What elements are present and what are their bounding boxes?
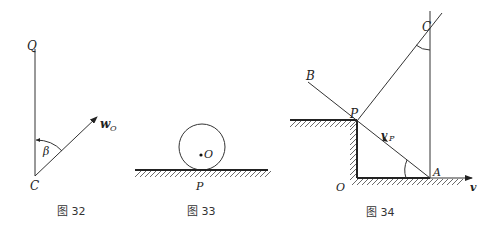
hatch-stroke — [165, 171, 171, 177]
angle-arrowhead-icon — [36, 138, 40, 142]
hatch-stroke — [350, 139, 356, 145]
caption-fig32: 图 32 — [57, 205, 86, 218]
hatch-stroke — [160, 171, 166, 177]
hatch-stroke — [330, 121, 336, 127]
hatch-stroke — [350, 121, 356, 127]
hatch-stroke — [352, 179, 358, 185]
label-vP: v — [381, 129, 388, 142]
figure-32: Q C β w O 图 32 — [27, 39, 117, 218]
hatch-stroke — [300, 121, 306, 127]
hatch-stroke — [350, 174, 356, 180]
center-dot — [199, 153, 202, 156]
hatch-stroke — [170, 171, 176, 177]
hatch-stroke — [345, 121, 351, 127]
rod-BA — [308, 82, 430, 178]
hatch-stroke — [350, 129, 356, 135]
hatch-stroke — [350, 124, 356, 130]
caption-fig33: 图 33 — [187, 205, 216, 218]
hatch-stroke — [397, 179, 403, 185]
label-beta: β — [42, 145, 49, 158]
hatch-stroke — [367, 179, 373, 185]
label-Q: Q — [27, 39, 37, 53]
hatch-stroke — [325, 121, 331, 127]
hatch-stroke — [335, 121, 341, 127]
hatch-stroke — [215, 171, 221, 177]
hatch-stroke — [350, 154, 356, 160]
hatch-stroke — [412, 179, 418, 185]
label-v: v — [470, 181, 477, 194]
hatch-stroke — [422, 179, 428, 185]
hatch-stroke — [220, 171, 226, 177]
hatch-stroke — [447, 179, 453, 185]
hatch-stroke — [210, 171, 216, 177]
hatch-stroke — [200, 171, 206, 177]
label-wO-subscript: O — [110, 124, 117, 133]
hatch-stroke — [350, 164, 356, 170]
hatch-stroke — [457, 179, 463, 185]
hatch-stroke — [320, 121, 326, 127]
hatch-stroke — [377, 179, 383, 185]
hatch-stroke — [175, 171, 181, 177]
hatch-stroke — [290, 121, 296, 127]
label-B: B — [305, 69, 315, 83]
hatch-stroke — [357, 179, 363, 185]
angle-C-arc — [416, 45, 430, 50]
figure-33: O P 图 33 — [135, 124, 271, 218]
hatch-stroke — [145, 171, 151, 177]
label-C: C — [422, 20, 431, 34]
hatch-stroke — [350, 149, 356, 155]
label-P: P — [349, 107, 359, 121]
diagram-canvas: Q C β w O 图 32 O P 图 33 — [0, 0, 497, 229]
ground-hatching — [135, 171, 271, 177]
label-P: P — [195, 180, 204, 193]
hatch-stroke — [305, 121, 311, 127]
label-O: O — [336, 181, 345, 194]
label-C: C — [30, 179, 39, 193]
hatch-stroke — [205, 171, 211, 177]
hatch-stroke — [350, 134, 356, 140]
hatch-stroke — [427, 179, 433, 185]
hatch-stroke — [150, 171, 156, 177]
hatch-stroke — [382, 179, 388, 185]
hatch-stroke — [255, 171, 261, 177]
figure-34: B P C A O v v P 图 34 — [290, 11, 477, 219]
hatch-stroke — [235, 171, 241, 177]
hatch-stroke — [372, 179, 378, 185]
hatch-stroke — [315, 121, 321, 127]
ledge-hatching — [290, 121, 356, 127]
hatch-stroke — [225, 171, 231, 177]
hatch-stroke — [437, 179, 443, 185]
floor-hatching — [352, 179, 463, 185]
hatch-stroke — [295, 121, 301, 127]
hatch-stroke — [350, 159, 356, 165]
hatch-stroke — [392, 179, 398, 185]
hatch-stroke — [265, 171, 271, 177]
hatch-stroke — [180, 171, 186, 177]
hatch-stroke — [190, 171, 196, 177]
hatch-stroke — [135, 171, 141, 177]
hatch-stroke — [240, 171, 246, 177]
hatch-stroke — [340, 121, 346, 127]
hatch-stroke — [260, 171, 266, 177]
hatch-stroke — [185, 171, 191, 177]
hatch-stroke — [387, 179, 393, 185]
caption-fig34: 图 34 — [366, 206, 395, 219]
label-O: O — [204, 148, 213, 161]
wheel-circle — [179, 124, 225, 170]
hatch-stroke — [407, 179, 413, 185]
hatch-stroke — [230, 171, 236, 177]
hatch-stroke — [417, 179, 423, 185]
wall-hatching — [350, 124, 356, 180]
hatch-stroke — [140, 171, 146, 177]
label-A: A — [432, 166, 441, 179]
angle-A-arc — [405, 160, 407, 178]
hatch-stroke — [452, 179, 458, 185]
hatch-stroke — [442, 179, 448, 185]
hatch-stroke — [350, 144, 356, 150]
hatch-stroke — [350, 169, 356, 175]
hatch-stroke — [402, 179, 408, 185]
hatch-stroke — [155, 171, 161, 177]
hatch-stroke — [195, 171, 201, 177]
hatch-stroke — [245, 171, 251, 177]
label-vP-subscript: P — [388, 134, 395, 143]
